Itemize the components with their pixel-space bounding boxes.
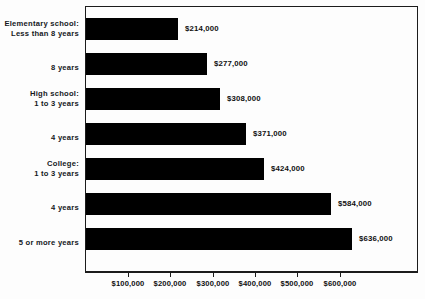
- category-label-8-years: 8 years: [0, 63, 79, 73]
- x-axis-tick-label: $100,000: [112, 279, 145, 288]
- bars-layer: $214,000 $277,000 $308,000 $371,000 $424…: [86, 6, 418, 272]
- x-axis-tick: [213, 272, 214, 277]
- x-axis-line: [85, 271, 418, 273]
- bar-value-label: $277,000: [214, 53, 248, 75]
- bar-college-4-years: [86, 193, 331, 215]
- x-axis-tick: [128, 272, 129, 277]
- category-label-college-1-to-3: College: 1 to 3 years: [0, 159, 79, 178]
- category-axis-labels: Elementary school: Less than 8 years 8 y…: [0, 0, 82, 270]
- bar-8-years: [86, 53, 207, 75]
- bar-college-5-or-more: [86, 228, 352, 250]
- bar-value-label: $308,000: [227, 88, 261, 110]
- category-label-college-5-or-more: 5 or more years: [0, 238, 79, 248]
- bar-chart: Elementary school: Less than 8 years 8 y…: [0, 0, 425, 299]
- x-axis-tick-label: $400,000: [239, 279, 272, 288]
- bar-value-label: $636,000: [359, 228, 393, 250]
- bar-value-label: $371,000: [253, 123, 287, 145]
- category-label-elementary-less-than-8: Elementary school: Less than 8 years: [0, 19, 79, 38]
- x-axis-tick-label: $200,000: [154, 279, 187, 288]
- bar-high-school-4-years: [86, 123, 246, 145]
- category-label-high-school-1-to-3: High school: 1 to 3 years: [0, 89, 79, 108]
- bar-value-label: $424,000: [271, 158, 305, 180]
- x-axis-tick: [255, 272, 256, 277]
- x-axis-tick-label: $600,000: [324, 279, 357, 288]
- bar-high-school-1-to-3: [86, 88, 220, 110]
- bar-elementary-less-than-8: [86, 18, 178, 40]
- x-axis-tick: [340, 272, 341, 277]
- category-label-college-4-years: 4 years: [0, 203, 79, 213]
- bar-value-label: $214,000: [185, 18, 219, 40]
- bar-college-1-to-3: [86, 158, 264, 180]
- category-label-high-school-4-years: 4 years: [0, 133, 79, 143]
- x-axis-tick: [297, 272, 298, 277]
- x-axis-tick: [170, 272, 171, 277]
- x-axis-tick-label: $300,000: [197, 279, 230, 288]
- x-axis-tick-label: $500,000: [281, 279, 314, 288]
- bar-value-label: $584,000: [338, 193, 372, 215]
